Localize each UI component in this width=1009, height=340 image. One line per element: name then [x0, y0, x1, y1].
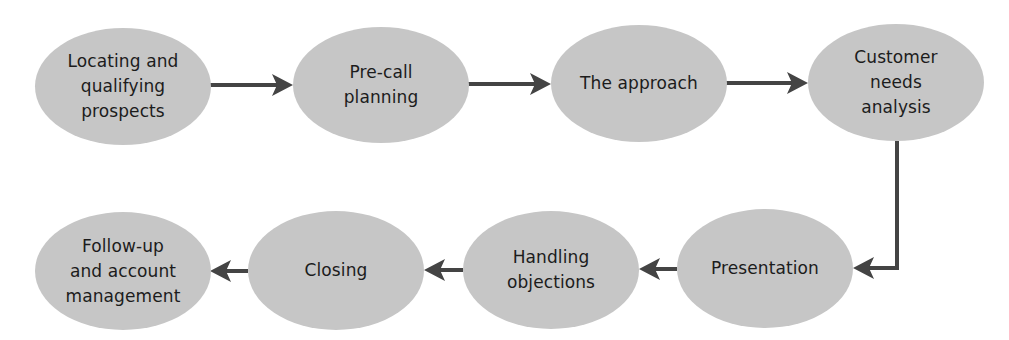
node-label: Follow-up and account management: [66, 234, 181, 309]
arrow-presentation-to-objections: [639, 258, 677, 280]
node-the-approach: The approach: [551, 25, 727, 142]
node-label: Locating and qualifying prospects: [68, 49, 179, 124]
node-closing: Closing: [248, 211, 424, 330]
node-label: Handling objections: [507, 245, 595, 295]
node-label: The approach: [580, 71, 698, 96]
arrow-closing-to-followup: [210, 260, 248, 282]
node-label: Pre-call planning: [344, 60, 419, 110]
arrow-precall-to-approach: [468, 73, 551, 95]
arrow-locating-to-precall: [210, 74, 293, 96]
sales-process-diagram: Locating and qualifying prospects Pre-ca…: [0, 0, 1009, 340]
node-label: Customer needs analysis: [854, 45, 937, 120]
arrow-objections-to-closing: [424, 259, 463, 281]
node-customer-needs-analysis: Customer needs analysis: [808, 24, 984, 141]
node-label: Closing: [305, 258, 368, 283]
node-label: Presentation: [711, 256, 819, 281]
node-locating-qualifying-prospects: Locating and qualifying prospects: [35, 28, 211, 145]
node-presentation: Presentation: [677, 209, 853, 328]
node-pre-call-planning: Pre-call planning: [293, 27, 469, 143]
node-handling-objections: Handling objections: [463, 211, 639, 329]
arrow-needs-to-presentation: [853, 141, 897, 279]
arrow-approach-to-needs: [726, 72, 808, 94]
node-follow-up-account-management: Follow-up and account management: [35, 212, 211, 330]
